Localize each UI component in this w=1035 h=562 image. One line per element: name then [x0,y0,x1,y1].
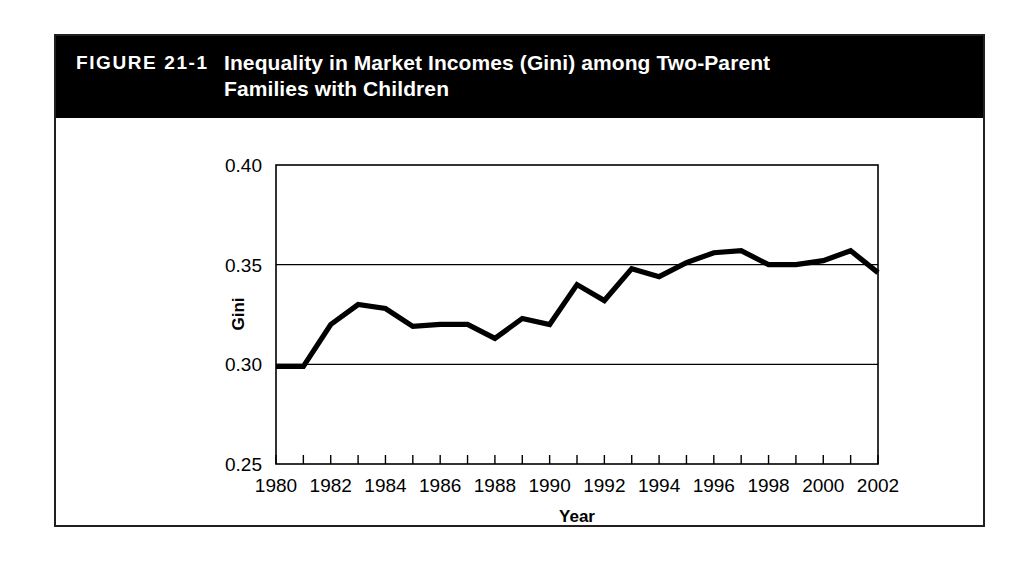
x-tick-label: 1992 [583,475,625,496]
figure-number-label: FIGURE 21-1 [56,50,224,76]
y-tick-label: 0.30 [225,354,262,375]
chart-body: 0.250.300.350.40 19801982198419861988199… [56,118,983,525]
x-tick-label: 1986 [419,475,461,496]
x-tick-label: 1980 [255,475,297,496]
y-axis-title: Gini [229,297,248,330]
x-axis: 1980198219841986198819901992199419961998… [255,455,899,496]
y-tick-label: 0.25 [225,454,262,475]
x-tick-label: 1984 [364,475,407,496]
y-tick-label: 0.40 [225,155,262,176]
figure-frame: FIGURE 21-1 Inequality in Market Incomes… [54,34,985,527]
x-axis-title: Year [559,507,595,525]
x-tick-label: 1998 [747,475,789,496]
x-tick-label: 1982 [310,475,352,496]
y-tick-label: 0.35 [225,255,262,276]
x-tick-label: 1988 [474,475,516,496]
plot-frame-border [276,165,878,464]
figure-header-band: FIGURE 21-1 Inequality in Market Incomes… [56,36,983,118]
figure-title: Inequality in Market Incomes (Gini) amon… [224,50,844,102]
gini-line-chart: 0.250.300.350.40 19801982198419861988199… [56,118,983,525]
x-tick-label: 1996 [693,475,735,496]
gini-data-line [276,251,878,367]
plot-area: 0.250.300.350.40 19801982198419861988199… [56,118,983,525]
x-tick-label: 1994 [638,475,681,496]
page-root: FIGURE 21-1 Inequality in Market Incomes… [0,0,1035,562]
x-tick-label: 2000 [802,475,844,496]
x-tick-label: 2002 [857,475,899,496]
gridlines [276,265,878,365]
x-tick-label: 1990 [528,475,570,496]
